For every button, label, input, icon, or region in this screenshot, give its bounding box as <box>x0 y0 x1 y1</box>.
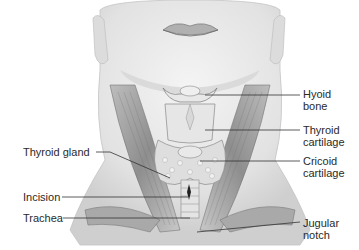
trachea-shape <box>181 180 199 218</box>
label-hyoid-bone-line1: Hyoid <box>303 88 359 100</box>
label-jugular-notch-line1: Jugular <box>303 217 359 229</box>
neck-anatomy-diagram: Hyoid bone Thyroid cartilage Cricoid car… <box>0 0 359 250</box>
label-hyoid-bone-line2: bone <box>303 100 359 112</box>
label-thyroid-cartilage-line1: Thyroid <box>303 124 359 136</box>
thyroid-gland-shape <box>154 140 225 185</box>
label-thyroid-gland: Thyroid gland <box>23 146 90 158</box>
label-cricoid-cartilage: Cricoid cartilage <box>303 155 359 179</box>
label-cricoid-cartilage-line1: Cricoid <box>303 155 359 167</box>
label-jugular-notch-line2: notch <box>303 229 359 241</box>
label-thyroid-cartilage-line2: cartilage <box>303 136 359 148</box>
label-hyoid-bone: Hyoid bone <box>303 88 359 112</box>
label-trachea: Trachea <box>23 212 63 224</box>
thyroid-cartilage-shape <box>165 104 215 143</box>
label-thyroid-cartilage: Thyroid cartilage <box>303 124 359 148</box>
label-cricoid-cartilage-line2: cartilage <box>303 167 359 179</box>
label-jugular-notch: Jugular notch <box>303 217 359 241</box>
label-incision: Incision <box>23 191 60 203</box>
